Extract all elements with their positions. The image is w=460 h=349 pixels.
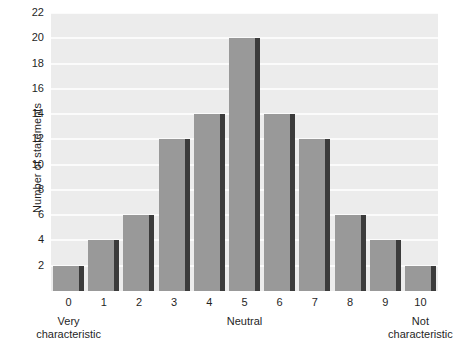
bar[interactable] (299, 139, 325, 291)
y-axis-tick-label: 4 (38, 234, 44, 245)
x-axis-anchor-captions: Very characteristicNeutralNot characteri… (0, 315, 460, 345)
bar-slot (335, 13, 361, 291)
x-axis-tick-label: 8 (347, 296, 353, 308)
bar-shadow-edge (396, 240, 401, 291)
bar[interactable] (88, 240, 114, 291)
x-axis-tick-label: 9 (382, 296, 388, 308)
bar-slot (405, 13, 431, 291)
y-axis-tick-label: 8 (38, 184, 44, 195)
x-axis-tick-label: 0 (66, 296, 72, 308)
x-axis-tick-label: 2 (136, 296, 142, 308)
y-axis-tick-label: 22 (32, 7, 44, 18)
bar[interactable] (123, 215, 149, 291)
bar-slot (88, 13, 114, 291)
bar-shadow-edge (149, 215, 154, 291)
bar-slot (299, 13, 325, 291)
x-axis-tick-label: 5 (241, 296, 247, 308)
x-anchor-very-characteristic: Very characteristic (36, 315, 101, 341)
x-anchor-not-characteristic: Not characteristic (388, 315, 453, 341)
bar[interactable] (159, 139, 185, 291)
bar[interactable] (335, 215, 361, 291)
x-axis-tick-label: 4 (206, 296, 212, 308)
x-axis-tick-label: 1 (101, 296, 107, 308)
bar[interactable] (194, 114, 220, 291)
plot-area (51, 13, 438, 291)
bar-shadow-edge (220, 114, 225, 291)
bar[interactable] (229, 38, 255, 291)
y-axis-tick-label: 6 (38, 209, 44, 220)
bar[interactable] (53, 266, 79, 291)
bar-shadow-edge (185, 139, 190, 291)
bar-slot (53, 13, 79, 291)
x-axis-tick-label: 6 (277, 296, 283, 308)
y-axis-tick-label: 16 (32, 83, 44, 94)
bar-shadow-edge (325, 139, 330, 291)
bar-chart-figure: Number of statements 246810121416182022 … (0, 0, 460, 349)
y-axis-tick-label: 10 (32, 159, 44, 170)
bar-slot (229, 13, 255, 291)
bar[interactable] (370, 240, 396, 291)
y-axis-tick-label: 2 (38, 260, 44, 271)
bar-slot (264, 13, 290, 291)
x-axis-tick-label: 3 (171, 296, 177, 308)
bar-slot (123, 13, 149, 291)
x-axis-tick-labels: 012345678910 (51, 296, 438, 310)
bar-slot (159, 13, 185, 291)
bar-shadow-edge (255, 38, 260, 291)
bar-slot (194, 13, 220, 291)
bar[interactable] (405, 266, 431, 291)
bar-shadow-edge (79, 266, 84, 291)
y-axis-tick-label: 18 (32, 58, 44, 69)
x-axis-tick-label: 10 (414, 296, 426, 308)
bar-slot (370, 13, 396, 291)
bar-shadow-edge (431, 266, 436, 291)
bars-layer (51, 13, 438, 291)
y-axis-tick-label: 14 (32, 108, 44, 119)
bar-shadow-edge (290, 114, 295, 291)
y-axis-tick-label: 12 (32, 133, 44, 144)
x-anchor-neutral: Neutral (227, 315, 262, 328)
x-axis-tick-label: 7 (312, 296, 318, 308)
bar-shadow-edge (361, 215, 366, 291)
y-axis-tick-labels: 246810121416182022 (0, 0, 48, 349)
bar-shadow-edge (114, 240, 119, 291)
bar[interactable] (264, 114, 290, 291)
y-axis-tick-label: 20 (32, 32, 44, 43)
